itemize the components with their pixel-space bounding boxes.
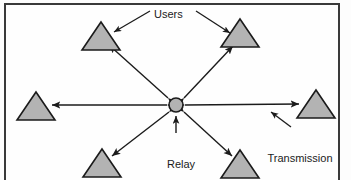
- user-top-left[interactable]: [82, 22, 120, 50]
- transmission-links-label-line1: Transmission: [258, 153, 342, 165]
- link-bottom-left: [112, 112, 169, 156]
- diagram-canvas: Users Relay Point Transmission Links: [0, 0, 351, 180]
- link-top-right: [184, 46, 233, 98]
- transmission-leader: [271, 112, 291, 127]
- annotation-leaders-group: [114, 11, 291, 133]
- relay-point-node[interactable]: [169, 98, 183, 112]
- user-right[interactable]: [297, 90, 335, 118]
- relay-point-label: Relay Point: [163, 136, 199, 180]
- relay-point-label-line1: Relay: [163, 159, 199, 171]
- transmission-links-label: Transmission Links: [258, 130, 342, 180]
- user-top-right[interactable]: [221, 19, 259, 47]
- users-label: Users: [154, 9, 183, 21]
- users-leader-left: [114, 11, 150, 32]
- user-left[interactable]: [17, 92, 55, 120]
- link-right: [185, 104, 299, 105]
- link-top-left: [109, 45, 168, 98]
- user-bottom-right[interactable]: [221, 150, 259, 178]
- users-leader-right: [196, 11, 230, 33]
